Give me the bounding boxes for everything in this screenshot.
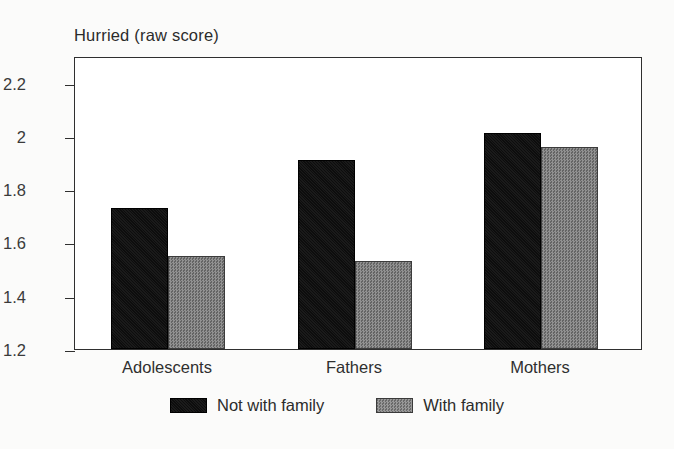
bar-mothers-with-family [541, 147, 598, 349]
legend-label: Not with family [217, 396, 324, 415]
chart-legend: Not with familyWith family [0, 396, 674, 415]
bar-adolescents-with-family [168, 256, 225, 349]
y-axis-tick-label: 1.8 [0, 181, 26, 200]
y-axis-tick [65, 351, 75, 352]
x-axis-label-adolescents: Adolescents [122, 358, 212, 377]
plot-frame [74, 57, 642, 350]
y-axis-tick-label: 2 [0, 127, 26, 146]
gray-square-swatch [376, 398, 413, 413]
y-axis-tick [65, 85, 75, 86]
legend-item-not-with-family: Not with family [170, 396, 324, 415]
y-axis-tick-label: 1.2 [0, 341, 26, 360]
bar-mothers-not-with-family [484, 133, 541, 349]
y-axis-tick [65, 138, 75, 139]
y-axis-tick-label: 2.2 [0, 74, 26, 93]
bar-adolescents-not-with-family [111, 208, 168, 349]
legend-item-with-family: With family [376, 396, 504, 415]
bar-fathers-not-with-family [298, 160, 355, 349]
legend-label: With family [423, 396, 504, 415]
bar-chart-figure: Hurried (raw score) 1.21.41.61.822.2 Ado… [0, 0, 674, 449]
x-axis-label-fathers: Fathers [326, 358, 382, 377]
black-square-swatch [170, 398, 207, 413]
y-axis-tick [65, 191, 75, 192]
x-axis-label-mothers: Mothers [510, 358, 570, 377]
chart-title: Hurried (raw score) [74, 26, 219, 45]
y-axis-tick-label: 1.6 [0, 234, 26, 253]
plot-area [75, 58, 641, 349]
y-axis-tick [65, 298, 75, 299]
y-axis-tick [65, 244, 75, 245]
y-axis-tick-label: 1.4 [0, 287, 26, 306]
bar-fathers-with-family [355, 261, 412, 349]
